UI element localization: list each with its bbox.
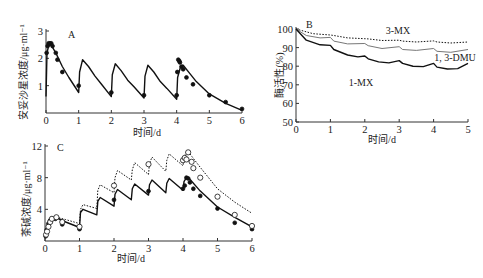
- data-point: [109, 91, 113, 95]
- panel-a-label: A: [68, 29, 76, 40]
- figure: 0123456123 A 时间/d 安妥沙星浓度/μg·ml⁻¹ 0123455…: [0, 0, 483, 278]
- data-point: [175, 93, 179, 97]
- x-tick-label: 1: [77, 243, 82, 254]
- x-tick-label: 0: [42, 243, 47, 254]
- data-point: [56, 58, 60, 62]
- data-point: [142, 93, 146, 97]
- data-point: [233, 221, 237, 225]
- data-point: [147, 189, 151, 193]
- panel-b-ylabel: 酶活性(%): [273, 53, 286, 98]
- data-point: [45, 51, 49, 55]
- data-point: [184, 157, 189, 162]
- x-tick-label: 0: [293, 124, 298, 135]
- panel-b-label: B: [306, 19, 313, 30]
- data-point: [51, 44, 55, 48]
- y-tick-label: 90: [283, 43, 294, 54]
- data-point: [188, 181, 192, 185]
- panel-c-xlabel: 时间/d: [117, 252, 145, 264]
- data-point: [216, 207, 220, 211]
- x-tick-label: 6: [239, 115, 244, 126]
- panel-a-chart: 0123456123 A 时间/d 安妥沙星浓度/μg·ml⁻¹: [17, 24, 245, 138]
- x-tick-label: 4: [180, 243, 186, 254]
- data-point: [249, 223, 254, 228]
- x-tick-label: 5: [465, 124, 470, 135]
- x-tick-label: 1: [76, 115, 81, 126]
- data-point: [224, 100, 228, 104]
- data-point: [185, 76, 189, 80]
- data-point: [189, 159, 194, 164]
- series-line: [296, 29, 468, 69]
- data-point: [54, 51, 58, 55]
- data-point: [111, 183, 116, 188]
- y-tick-label: 60: [283, 98, 294, 109]
- x-tick-label: 2: [362, 124, 367, 135]
- data-point: [178, 61, 182, 65]
- y-tick-label: 3: [38, 26, 43, 37]
- data-point: [183, 184, 187, 188]
- panel-a-xlabel: 时间/d: [133, 126, 161, 138]
- data-point: [191, 166, 196, 171]
- panel-b-xlabel: 时间/d: [368, 133, 396, 145]
- data-point: [191, 82, 195, 86]
- data-point: [112, 198, 116, 202]
- data-point: [175, 70, 179, 74]
- data-point: [232, 212, 237, 217]
- data-point: [181, 67, 185, 71]
- x-tick-label: 3: [146, 243, 151, 254]
- x-tick-label: 5: [207, 115, 212, 126]
- x-tick-label: 0: [43, 115, 48, 126]
- series-line: [296, 29, 468, 43]
- panel-c-ylabel: 茶碱浓度/μg·ml⁻¹: [20, 161, 32, 236]
- x-tick-label: 4: [431, 124, 437, 135]
- panel-b-plot-area: 0123455060708090100: [277, 24, 470, 135]
- data-point: [186, 150, 191, 155]
- data-point: [60, 219, 65, 224]
- data-point: [215, 194, 220, 199]
- x-tick-label: 4: [174, 115, 180, 126]
- panel-a-plot-area: 0123456123: [38, 26, 245, 126]
- data-point: [77, 84, 81, 88]
- panel-c-plot-area: 01234564812: [32, 141, 255, 254]
- y-tick-label: 8: [37, 173, 42, 184]
- panel-c-chart: 01234564812 C 时间/d 茶碱浓度/μg·ml⁻¹: [20, 141, 255, 264]
- annotation-3mx: 3-MX: [386, 25, 411, 36]
- x-tick-label: 2: [111, 243, 116, 254]
- annotation-1mx: 1-MX: [349, 77, 374, 88]
- y-tick-label: 100: [277, 24, 293, 35]
- data-point: [198, 194, 202, 198]
- annotation-13dmu: 1, 3-DMU: [434, 52, 476, 63]
- data-point: [146, 162, 151, 167]
- y-tick-label: 4: [37, 204, 43, 215]
- panel-c-label: C: [57, 142, 64, 153]
- x-tick-label: 3: [141, 115, 146, 126]
- data-point: [54, 215, 59, 220]
- x-tick-label: 5: [215, 243, 220, 254]
- series-line: [45, 178, 252, 237]
- data-point: [60, 70, 64, 74]
- panel-a-ylabel: 安妥沙星浓度/μg·ml⁻¹: [17, 24, 29, 119]
- data-point: [198, 175, 203, 180]
- y-tick-label: 50: [283, 117, 294, 128]
- y-tick-label: 2: [38, 53, 43, 64]
- data-point: [240, 107, 244, 111]
- data-point: [77, 224, 82, 229]
- x-tick-label: 6: [249, 243, 254, 254]
- data-point: [191, 187, 195, 191]
- x-tick-label: 2: [109, 115, 114, 126]
- data-point: [207, 93, 211, 97]
- y-tick-label: 12: [32, 141, 43, 152]
- y-tick-label: 1: [38, 81, 43, 92]
- x-tick-label: 3: [397, 124, 402, 135]
- data-point: [186, 177, 190, 181]
- series-line: [46, 45, 242, 111]
- panel-b-chart: 0123455060708090100 B 时间/d 酶活性(%) 3-MX 1…: [273, 19, 477, 145]
- x-tick-label: 1: [328, 124, 333, 135]
